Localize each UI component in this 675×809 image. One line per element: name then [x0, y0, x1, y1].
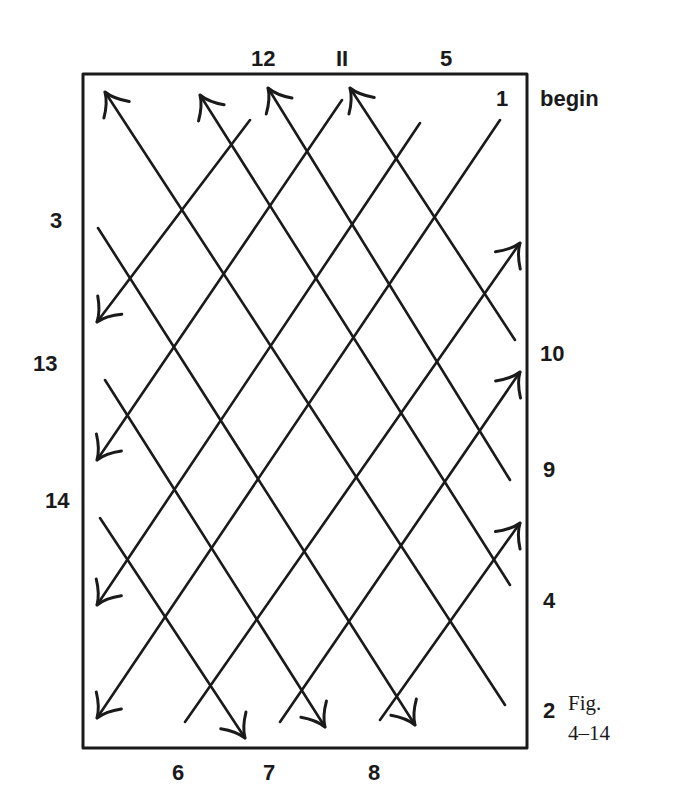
arrowhead-icon: [495, 243, 520, 269]
label-bottom-0: 6: [172, 762, 184, 784]
label-bottom-1: 7: [263, 762, 275, 784]
label-right-4: 4: [543, 590, 555, 612]
diagonal-line-down-14: [100, 518, 245, 738]
diagonal-line-down-2: [105, 92, 505, 705]
arrowhead-icon: [495, 523, 520, 549]
arrowhead-icon: [266, 88, 292, 114]
label-top-0: 12: [251, 48, 275, 70]
lattice-figure: 12II51begin1094231314678 Fig. 4–14: [0, 0, 675, 809]
label-right-0: 1: [496, 88, 508, 110]
label-left-1: 13: [33, 353, 57, 375]
diagonal-line-up-7: [280, 372, 520, 722]
diagonal-line-up-12: [97, 120, 250, 322]
diagonal-line-down-13: [105, 380, 325, 727]
diagonal-line-down-4: [200, 95, 510, 585]
label-top-2: 5: [440, 48, 452, 70]
label-bottom-2: 8: [368, 762, 380, 784]
diagonal-line-down-3: [98, 228, 415, 725]
label-right-1: begin: [540, 88, 599, 110]
figure-caption: Fig. 4–14: [568, 688, 610, 748]
diagonal-lines: [97, 88, 520, 738]
label-right-5: 2: [543, 700, 555, 722]
caption-line-1: Fig.: [568, 688, 610, 718]
label-top-1: II: [336, 48, 348, 70]
diagonal-line-up-11: [97, 100, 342, 460]
diagonal-line-down-10: [350, 88, 515, 340]
label-right-2: 10: [540, 343, 564, 365]
label-right-3: 9: [543, 459, 555, 481]
caption-line-2: 4–14: [568, 718, 610, 748]
diagonal-line-up-1: [97, 120, 500, 718]
label-left-2: 14: [45, 490, 69, 512]
label-left-0: 3: [50, 210, 62, 232]
